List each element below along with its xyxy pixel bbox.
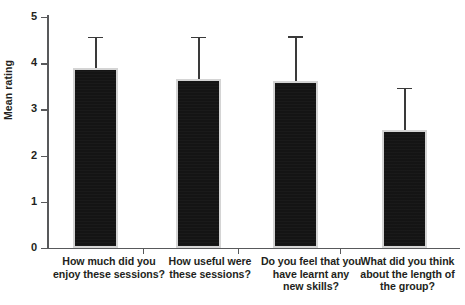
error-bar-4-stem [404, 88, 406, 131]
category-label-1-line-2: enjoy these sessions? [49, 268, 169, 281]
y-tick-label-0: 0 [18, 241, 37, 253]
y-tick-3 [41, 109, 47, 110]
x-tick-sep-3 [340, 248, 341, 254]
category-label-2: How useful were these sessions? [155, 255, 265, 280]
error-bar-2-cap [191, 37, 206, 39]
category-label-2-line-1: How useful were [155, 255, 265, 268]
error-bar-3-stem [295, 36, 297, 80]
y-axis-label: Mean rating [2, 40, 14, 120]
error-bar-1-cap [88, 37, 103, 39]
bar-3-fill [275, 83, 316, 246]
y-tick-label-2: 2 [18, 149, 37, 161]
bar-4 [382, 130, 427, 248]
category-label-2-line-2: these sessions? [155, 268, 265, 281]
category-label-1-line-1: How much did you [49, 255, 169, 268]
category-label-1: How much did you enjoy these sessions? [49, 255, 169, 280]
y-tick-0 [41, 248, 47, 249]
bar-3 [273, 81, 318, 248]
error-bar-2-stem [198, 37, 200, 79]
category-label-4-line-2: about the length of [350, 268, 465, 281]
bar-1 [73, 68, 118, 248]
bar-2-fill [178, 81, 219, 246]
bar-1-fill [75, 70, 116, 246]
category-label-4: What did you think about the length of t… [350, 255, 465, 293]
y-tick-label-4: 4 [18, 56, 37, 68]
y-axis-line [47, 15, 49, 249]
y-tick-label-3: 3 [18, 102, 37, 114]
error-bar-4-cap [397, 88, 412, 90]
y-tick-4 [41, 63, 47, 64]
y-tick-label-5: 5 [18, 10, 37, 22]
x-tick-sep-2 [238, 248, 239, 254]
category-label-4-line-1: What did you think [350, 255, 465, 268]
y-tick-label-1: 1 [18, 195, 37, 207]
error-bar-3-cap [288, 36, 303, 38]
y-tick-1 [41, 202, 47, 203]
bar-2 [176, 79, 221, 248]
category-label-4-line-3: the group? [350, 280, 465, 293]
y-tick-5 [41, 17, 47, 18]
bar-4-fill [384, 132, 425, 246]
x-tick-sep-1 [143, 248, 144, 254]
bar-chart: Mean rating 5 4 3 2 1 0 How much did you… [0, 0, 465, 305]
error-bar-1-stem [95, 37, 97, 68]
y-tick-2 [41, 156, 47, 157]
